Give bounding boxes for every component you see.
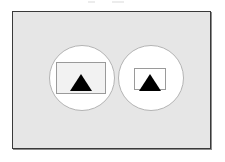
left-black-triangle-icon	[70, 74, 92, 91]
top-edge-artifact	[88, 1, 95, 3]
figure-canvas	[0, 0, 225, 162]
right-black-triangle-icon	[139, 74, 161, 91]
top-edge-artifact	[112, 1, 124, 3]
outer-frame	[12, 11, 211, 149]
